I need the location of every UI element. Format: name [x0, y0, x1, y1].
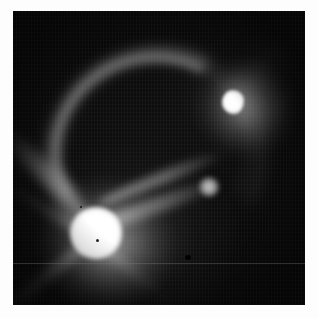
- main-source-core: [70, 207, 122, 259]
- horizontal-readout-line-artifact: [13, 263, 305, 264]
- dark-speck-artifact: [80, 206, 82, 208]
- dark-speck-artifact: [185, 255, 191, 260]
- secondary-source-core: [222, 90, 244, 114]
- screenshot-root: [0, 0, 318, 318]
- companion-blob-feature: [199, 177, 219, 197]
- secondary-source-halo: [199, 63, 291, 155]
- dark-speck-artifact: [96, 239, 99, 242]
- astronomical-image-plate: [13, 11, 305, 305]
